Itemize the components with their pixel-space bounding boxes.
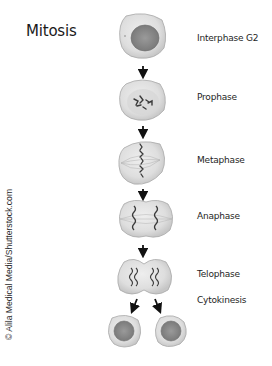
anaphase-cell-icon [119, 200, 172, 237]
interphase-cell-icon [120, 14, 166, 59]
telophase-cell-icon [118, 259, 172, 294]
metaphase-cell-icon [119, 142, 165, 185]
prophase-cell-icon [120, 80, 166, 120]
mitosis-diagram [0, 0, 272, 366]
daughter-cells-icon [108, 315, 186, 347]
